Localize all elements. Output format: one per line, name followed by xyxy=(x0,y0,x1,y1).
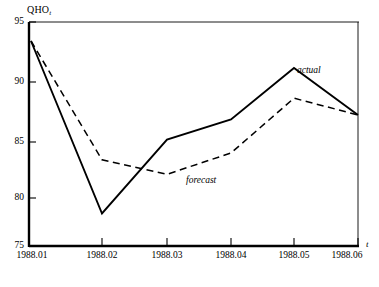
series-label-forecast: forecast xyxy=(186,175,216,185)
y-tick-label-80: 80 xyxy=(2,192,24,202)
y-tick-label-75: 75 xyxy=(2,240,24,250)
x-axis-title: t xyxy=(366,239,369,249)
x-tick-label-1988-03: 1988.03 xyxy=(137,250,197,260)
chart-container: QHOt t 95 90 85 80 75 1988.01 1988.02 19… xyxy=(0,0,379,287)
x-tick-label-1988-05: 1988.05 xyxy=(264,250,324,260)
chart-plot-area xyxy=(0,0,379,287)
x-tick-label-1988-02: 1988.02 xyxy=(72,250,132,260)
series-line-forecast xyxy=(31,41,358,174)
y-tick-label-90: 90 xyxy=(2,76,24,86)
y-tick-label-95: 95 xyxy=(2,16,24,26)
y-axis-title-text: QHO xyxy=(27,4,49,15)
series-label-actual: actual xyxy=(297,65,321,75)
axis-frame xyxy=(29,22,359,247)
x-tick-label-1988-06: 1988.06 xyxy=(317,250,377,260)
x-tick-label-1988-04: 1988.04 xyxy=(201,250,261,260)
x-tick-label-1988-01: 1988.01 xyxy=(2,250,62,260)
y-tick-label-85: 85 xyxy=(2,136,24,146)
y-axis-title: QHOt xyxy=(27,4,51,15)
